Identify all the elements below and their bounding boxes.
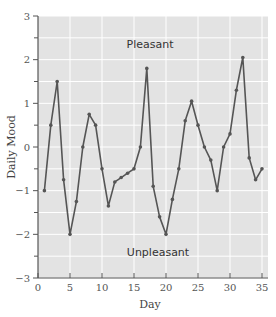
data-point	[260, 167, 264, 171]
data-point	[235, 88, 239, 92]
data-point	[215, 189, 219, 193]
data-point	[203, 145, 207, 149]
pleasant-annotation: Pleasant	[127, 38, 175, 51]
data-point	[254, 178, 258, 182]
y-tick-label: 2	[24, 54, 30, 65]
data-point	[241, 56, 245, 60]
y-tick-label: 1	[24, 98, 30, 109]
x-tick-label: 20	[160, 282, 173, 293]
data-point	[222, 145, 226, 149]
data-point	[55, 80, 59, 84]
data-point	[75, 200, 79, 204]
x-tick-label: 10	[96, 282, 109, 293]
x-axis-title: Day	[139, 298, 161, 311]
mood-line-chart: −3−2−10123 05101520253035 Pleasant Unple…	[0, 0, 276, 317]
data-point	[94, 123, 98, 127]
x-tick-label: 30	[224, 282, 237, 293]
data-point	[196, 123, 200, 127]
data-point	[228, 132, 232, 136]
y-tick-label: 3	[24, 11, 30, 22]
x-tick-label: 15	[128, 282, 141, 293]
data-point	[100, 167, 104, 171]
y-axis-ticks: −3−2−10123	[15, 11, 38, 284]
data-point	[190, 99, 194, 103]
data-point	[177, 167, 181, 171]
x-tick-label: 25	[192, 282, 205, 293]
data-point	[87, 112, 91, 116]
data-point	[81, 145, 85, 149]
data-point	[145, 67, 149, 71]
y-tick-label: 0	[24, 142, 30, 153]
y-tick-label: −3	[15, 273, 30, 284]
data-point	[247, 156, 251, 160]
data-point	[43, 189, 47, 193]
y-tick-label: −2	[15, 229, 30, 240]
data-point	[113, 180, 117, 184]
data-point	[132, 167, 136, 171]
data-point	[139, 145, 143, 149]
unpleasant-annotation: Unpleasant	[127, 246, 190, 259]
data-point	[183, 119, 187, 123]
y-axis-title: Daily Mood	[5, 115, 18, 179]
y-tick-label: −1	[15, 185, 30, 196]
data-point	[158, 215, 162, 219]
data-point	[151, 185, 155, 189]
x-tick-label: 0	[35, 282, 41, 293]
data-point	[107, 204, 111, 208]
x-tick-label: 5	[67, 282, 73, 293]
data-point	[119, 176, 123, 180]
data-point	[126, 171, 130, 175]
data-point	[209, 158, 213, 162]
data-point	[62, 178, 66, 182]
data-point	[68, 233, 72, 237]
data-point	[164, 233, 168, 237]
data-point	[171, 198, 175, 202]
data-point	[49, 123, 53, 127]
x-tick-label: 35	[256, 282, 269, 293]
